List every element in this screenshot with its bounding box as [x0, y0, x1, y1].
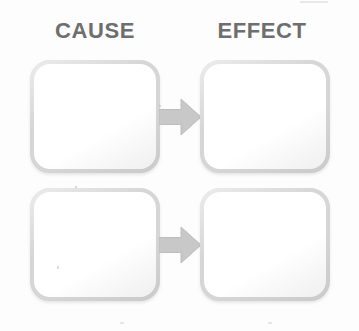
cause-effect-diagram: CAUSE EFFECT	[0, 0, 359, 331]
scan-speckle	[300, 1, 328, 3]
effect-box-1[interactable]	[200, 60, 330, 173]
effect-box-2[interactable]	[200, 188, 330, 301]
arrow-right-icon-2	[159, 226, 201, 264]
column-header-cause: CAUSE	[25, 18, 165, 44]
cause-box-2[interactable]	[30, 188, 160, 301]
scan-speckle	[268, 322, 272, 324]
column-header-effect: EFFECT	[192, 18, 332, 44]
arrow-right-icon-1	[159, 98, 201, 136]
scan-speckle	[120, 322, 124, 324]
cause-box-1[interactable]	[30, 60, 160, 173]
